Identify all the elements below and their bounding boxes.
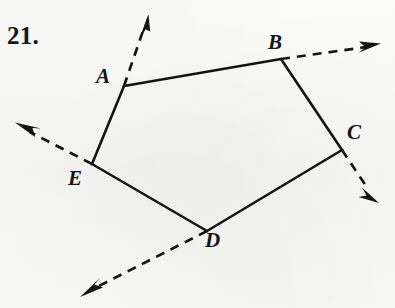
vertex-label-c: C: [347, 122, 361, 143]
arrowhead-C: [359, 188, 380, 204]
pentagon-figure: [0, 0, 395, 308]
arrowhead-E: [15, 123, 41, 138]
edge-E-A: [92, 86, 124, 164]
ray-at-D: [97, 231, 207, 287]
figure-page: 21. A B C D E: [0, 0, 395, 308]
vertex-label-d: D: [205, 230, 220, 251]
vertex-label-a: A: [96, 66, 110, 87]
ray-arrowheads: [15, 15, 381, 298]
vertex-label-e: E: [68, 168, 82, 189]
ray-at-E: [30, 132, 92, 164]
ray-at-A: [124, 28, 144, 86]
arrowhead-D: [80, 278, 103, 298]
arrowhead-A-tip: [141, 15, 150, 35]
edge-B-C: [281, 59, 342, 150]
problem-number: 21.: [7, 23, 39, 48]
exterior-rays: [30, 28, 368, 287]
edge-D-E: [92, 164, 207, 231]
edge-A-B: [124, 59, 281, 86]
pentagon-outline: [92, 59, 342, 231]
ray-at-C: [342, 150, 368, 189]
vertex-label-b: B: [268, 32, 282, 53]
edge-C-D: [207, 150, 342, 231]
ray-at-B: [281, 47, 366, 59]
